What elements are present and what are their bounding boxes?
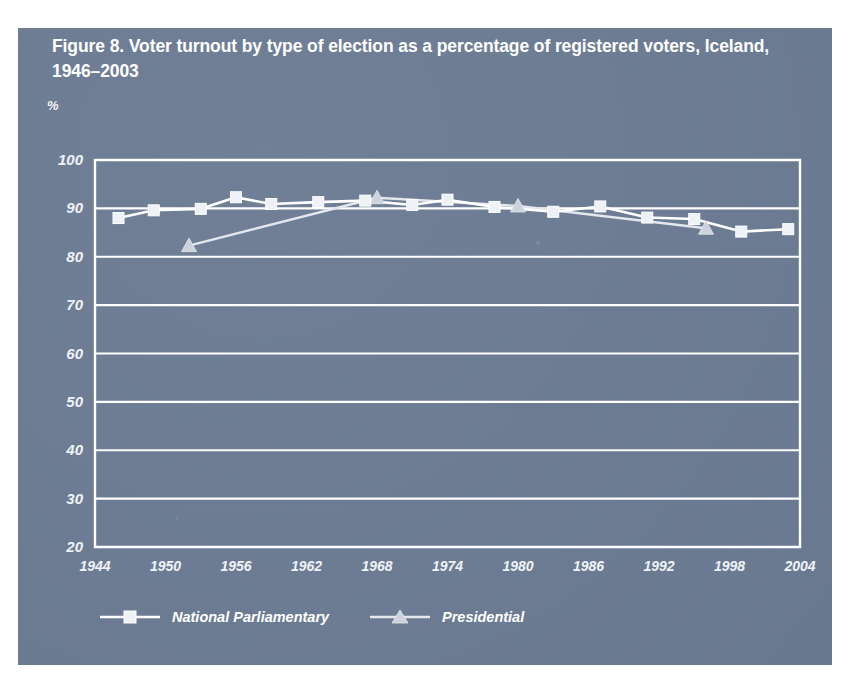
data-point-national-parliamentary-1987: [595, 201, 606, 212]
data-point-national-parliamentary-1956: [231, 192, 242, 203]
x-tick-label-1962: 1962: [291, 558, 322, 574]
data-point-national-parliamentary-1967: [360, 195, 371, 206]
x-tick-label-1968: 1968: [361, 558, 392, 574]
legend-label-1: Presidential: [442, 609, 525, 625]
data-point-national-parliamentary-1963: [313, 197, 324, 208]
data-point-national-parliamentary-1959: [266, 199, 277, 210]
y-tick-label-20: 20: [65, 538, 83, 555]
data-point-national-parliamentary-1991: [642, 212, 653, 223]
x-tick-label-1998: 1998: [714, 558, 745, 574]
x-tick-label-1974: 1974: [432, 558, 463, 574]
y-tick-label-50: 50: [66, 393, 83, 410]
data-point-national-parliamentary-2003: [783, 224, 794, 235]
x-tick-label-1992: 1992: [643, 558, 674, 574]
y-tick-label-90: 90: [66, 199, 83, 216]
data-point-national-parliamentary-1999: [736, 226, 747, 237]
chart-canvas: 2030405060708090100194419501956196219681…: [0, 0, 856, 694]
scan-speck: [536, 241, 540, 245]
y-tick-label-100: 100: [58, 151, 84, 168]
y-tick-label-40: 40: [65, 441, 83, 458]
x-tick-label-2004: 2004: [783, 558, 815, 574]
x-tick-label-1980: 1980: [502, 558, 533, 574]
legend-marker-square: [124, 611, 136, 623]
y-tick-label-60: 60: [66, 345, 83, 362]
x-tick-label-1956: 1956: [220, 558, 251, 574]
data-point-national-parliamentary-1978: [489, 201, 500, 212]
data-point-national-parliamentary-1995: [689, 214, 700, 225]
data-point-national-parliamentary-1946: [113, 213, 124, 224]
legend-label-0: National Parliamentary: [172, 609, 330, 625]
data-point-national-parliamentary-1949: [148, 205, 159, 216]
y-tick-label-80: 80: [66, 248, 83, 265]
data-point-national-parliamentary-1971: [407, 199, 418, 210]
y-tick-label-70: 70: [66, 296, 83, 313]
figure-root: Figure 8. Voter turnout by type of elect…: [0, 0, 856, 694]
data-point-national-parliamentary-1974: [442, 194, 453, 205]
data-point-national-parliamentary-1983: [548, 206, 559, 217]
x-tick-label-1944: 1944: [79, 558, 110, 574]
x-tick-label-1950: 1950: [150, 558, 181, 574]
scan-speck: [176, 517, 179, 520]
x-tick-label-1986: 1986: [573, 558, 604, 574]
y-tick-label-30: 30: [66, 490, 83, 507]
data-point-national-parliamentary-1953: [195, 203, 206, 214]
